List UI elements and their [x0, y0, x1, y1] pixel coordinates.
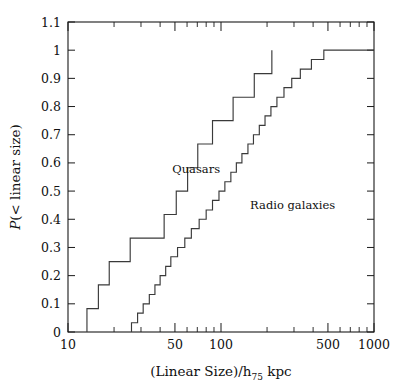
y-axis-tick-labels: 00.10.20.30.40.50.60.70.80.911.1 [41, 15, 61, 340]
y-tick-label: 0.1 [41, 296, 61, 311]
axis-frame [68, 22, 374, 332]
annotation-quasars: Quasars [172, 162, 220, 176]
series-annotations: QuasarsRadio galaxies [172, 162, 335, 213]
x-axis-tick-labels: 10501005001000 [60, 337, 390, 352]
y-tick-label: 1 [53, 43, 61, 58]
y-tick-label: 0.5 [41, 184, 61, 199]
x-tick-label: 10 [60, 337, 76, 352]
y-tick-label: 0.2 [41, 268, 61, 283]
y-axis-ticks [68, 22, 374, 332]
x-tick-label: 50 [167, 337, 183, 352]
svg-text:P(< linear size): P(< linear size) [7, 124, 23, 231]
y-tick-label: 0.6 [41, 155, 61, 170]
series-curve-radio-galaxies [131, 50, 374, 332]
series-curve-quasars [87, 50, 272, 332]
y-tick-label: 0.3 [41, 240, 61, 255]
y-tick-label: 1.1 [41, 15, 61, 30]
y-tick-label: 0.4 [41, 212, 61, 227]
y-tick-label: 0.7 [41, 127, 61, 142]
chart-figure: 00.10.20.30.40.50.60.70.80.911.1 1050100… [0, 0, 405, 385]
y-axis-title: P(< linear size) [7, 124, 23, 231]
x-axis-ticks [68, 22, 374, 332]
annotation-radio-galaxies: Radio galaxies [250, 198, 335, 212]
y-tick-label: 0.8 [41, 99, 61, 114]
x-axis-title: (Linear Size)/h75 kpc [150, 363, 291, 382]
data-series-group [87, 50, 374, 332]
x-tick-label: 500 [316, 337, 340, 352]
svg-text:(Linear Size)/h75 kpc: (Linear Size)/h75 kpc [150, 363, 291, 382]
x-tick-label: 100 [209, 337, 233, 352]
chart-plot-area: 00.10.20.30.40.50.60.70.80.911.1 1050100… [0, 0, 405, 385]
x-tick-label: 1000 [358, 337, 390, 352]
y-tick-label: 0.9 [41, 71, 61, 86]
